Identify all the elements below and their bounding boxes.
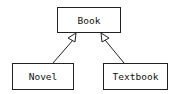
node-textbook: Textbook	[104, 64, 168, 90]
edge-textbook-book	[101, 33, 124, 63]
inheritance-diagram: Book Novel Textbook	[0, 0, 174, 94]
node-book: Book	[58, 8, 121, 33]
hollow-arrowhead-icon	[68, 33, 76, 42]
edge-novel-book	[53, 33, 76, 63]
hollow-arrowhead-icon	[101, 33, 109, 42]
node-label: Novel	[29, 71, 58, 82]
node-novel: Novel	[13, 64, 74, 90]
node-label: Book	[78, 15, 101, 26]
node-label: Textbook	[113, 71, 159, 82]
